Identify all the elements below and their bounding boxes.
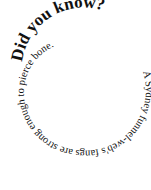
fact-path: A Sydney funnel-web's fangs are strong e… <box>15 38 151 159</box>
heading-path: Did you know? <box>7 0 107 63</box>
fact-text: A Sydney funnel-web's fangs are strong e… <box>15 38 151 159</box>
spiral-text-graphic: Did you know? A Sydney funnel-web's fang… <box>0 0 151 190</box>
heading-text: Did you know? <box>7 0 107 63</box>
